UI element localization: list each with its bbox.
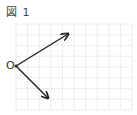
upper-vector-arrow [16,34,68,66]
lower-vector-arrow [16,66,48,98]
origin-label: O [6,59,15,72]
vector-grid-diagram [0,0,137,115]
grid [16,24,132,110]
